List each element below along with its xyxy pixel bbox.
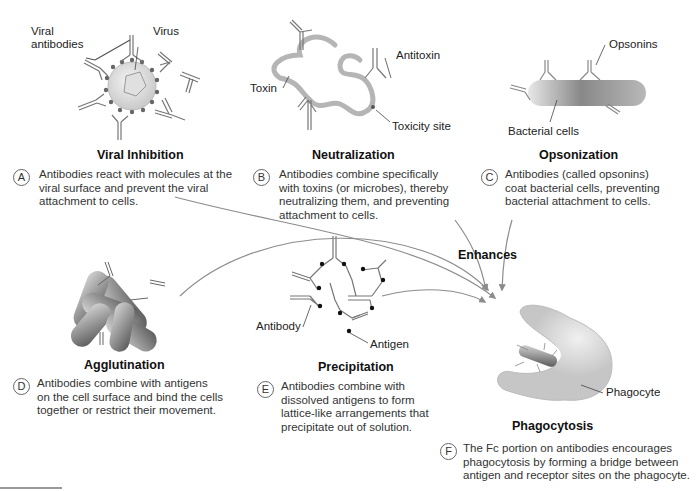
panel-e-badge: E	[257, 381, 274, 398]
panel-b-badge: B	[253, 169, 270, 186]
label-bacterial-cells: Bacterial cells	[508, 125, 579, 138]
bacterial-cell-illustration	[510, 45, 646, 122]
label-antibody: Antibody	[256, 320, 301, 333]
footer-rule	[0, 487, 62, 489]
label-opsonins: Opsonins	[609, 38, 658, 51]
panel-e-desc-line: dissolved antigens to form	[281, 394, 429, 408]
panel-a-desc-line: Antibodies react with molecules at the	[39, 168, 232, 182]
panel-f-title: Phagocytosis	[512, 419, 593, 433]
label-antigen: Antigen	[370, 338, 409, 351]
panel-c-description: Antibodies (called opsonins) coat bacter…	[505, 168, 660, 209]
panel-e-desc-line: precipitate out of solution.	[281, 421, 429, 435]
panel-a-desc-line: viral surface and prevent the viral	[39, 182, 232, 196]
panel-b-desc-line: with toxins (or microbes), thereby	[279, 182, 449, 196]
panel-d-title: Agglutination	[84, 358, 165, 372]
panel-b-desc-line: attachment to cells.	[279, 209, 449, 223]
panel-d-desc-line: on the cell surface and bind the cells	[37, 391, 223, 405]
label-viral-antibodies: Viral antibodies	[31, 25, 83, 51]
panel-e-desc-line: lattice-like arrangements that	[281, 407, 429, 421]
panel-f-desc-line: antigen and receptor sites on the phagoc…	[463, 469, 690, 483]
label-toxicity-site: Toxicity site	[392, 120, 451, 133]
label-virus: Virus	[153, 25, 179, 38]
panel-a-desc-line: attachment to cells.	[39, 195, 232, 209]
toxin-illustration	[274, 20, 391, 130]
panel-e-description: Antibodies combine with dissolved antige…	[281, 380, 429, 434]
panel-d-desc-line: Antibodies combine with antigens	[37, 377, 223, 391]
panel-e-desc-line: Antibodies combine with	[281, 380, 429, 394]
panel-a-title: Viral Inhibition	[97, 148, 184, 162]
panel-b-description: Antibodies combine specifically with tox…	[279, 168, 449, 222]
panel-c-desc-line: bacterial attachment to cells.	[505, 195, 660, 209]
label-viral-antibodies-line2: antibodies	[31, 38, 83, 51]
panel-f-desc-line: The Fc portion on antibodies encourages	[463, 442, 690, 456]
panel-c-desc-line: coat bacterial cells, preventing	[505, 182, 660, 196]
label-toxin: Toxin	[250, 82, 277, 95]
phagocyte-illustration	[498, 305, 612, 400]
panel-d-description: Antibodies combine with antigens on the …	[37, 377, 223, 418]
panel-c-desc-line: Antibodies (called opsonins)	[505, 168, 660, 182]
panel-f-desc-line: phagocytosis by forming a bridge between	[463, 456, 690, 470]
panel-e-title: Precipitation	[318, 360, 394, 374]
panel-a-description: Antibodies react with molecules at the v…	[39, 168, 232, 209]
agglutination-illustration	[67, 262, 165, 356]
panel-a-badge: A	[13, 169, 30, 186]
panel-d-badge: D	[13, 378, 30, 395]
panel-b-desc-line: neutralizing them, and preventing	[279, 195, 449, 209]
panel-f-badge: F	[440, 443, 457, 460]
panel-d-desc-line: together or restrict their movement.	[37, 404, 223, 418]
panel-c-badge: C	[481, 169, 498, 186]
label-viral-antibodies-line1: Viral	[31, 25, 83, 38]
label-phagocyte: Phagocyte	[606, 386, 660, 399]
virus-illustration	[78, 35, 200, 140]
panel-b-title: Neutralization	[312, 148, 395, 162]
panel-f-description: The Fc portion on antibodies encourages …	[463, 442, 690, 483]
label-enhances: Enhances	[458, 248, 517, 262]
panel-b-desc-line: Antibodies combine specifically	[279, 168, 449, 182]
label-antitoxin: Antitoxin	[396, 49, 440, 62]
panel-c-title: Opsonization	[539, 148, 618, 162]
precipitation-illustration	[290, 236, 386, 343]
